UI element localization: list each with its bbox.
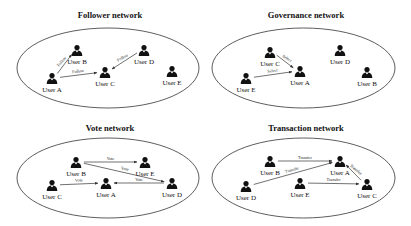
user-label: User C	[95, 80, 115, 88]
network-boundary-ellipse	[212, 138, 395, 218]
edge-label: Select	[267, 67, 279, 73]
user-label: User D	[236, 194, 256, 202]
panel-governance-network: Governance network User AUser BUser CUse…	[212, 10, 395, 108]
panel-title: Transaction network	[268, 123, 344, 133]
panel-title: Vote network	[86, 123, 135, 133]
user-icon	[265, 156, 276, 167]
edge-label: Follow	[56, 55, 68, 67]
user-label: User E	[162, 79, 181, 87]
user-icon	[295, 178, 306, 189]
user-label: User B	[357, 80, 377, 88]
user-icon	[265, 47, 276, 58]
user-node-c: User C	[42, 180, 62, 201]
user-label: User D	[162, 191, 182, 199]
edge-label: Vote	[75, 177, 83, 182]
user-node-d: User D	[134, 45, 154, 66]
user-icon	[101, 178, 112, 189]
user-node-a: User A	[330, 156, 350, 177]
user-node-e: User E	[135, 157, 154, 178]
user-icon	[241, 181, 252, 192]
edge-label: Vote	[107, 156, 115, 161]
user-node-b: User B	[260, 156, 280, 177]
user-label: User A	[42, 86, 62, 94]
panel-title: Follower network	[78, 10, 143, 20]
edge-label: Transfer	[349, 163, 363, 176]
user-node-c: User C	[357, 179, 377, 200]
user-icon	[47, 73, 58, 84]
user-node-b: User B	[66, 157, 86, 178]
edge-label: Follow	[72, 68, 84, 74]
user-icon	[241, 73, 252, 84]
user-label: User B	[67, 58, 87, 66]
user-icon	[140, 157, 151, 168]
user-node-b: User B	[67, 45, 87, 66]
user-label: User D	[330, 58, 350, 66]
user-label: User E	[290, 191, 309, 199]
user-node-d: User D	[236, 181, 256, 202]
edge-label: Transfer	[285, 165, 300, 174]
user-node-e: User E	[290, 178, 309, 199]
edge-e-to-c: Transfer	[308, 177, 359, 184]
user-icon	[100, 67, 111, 78]
edge-b-to-e: Vote	[84, 156, 137, 163]
edge-label: Transfer	[326, 177, 341, 182]
user-icon	[167, 66, 178, 77]
edge-b-to-a: Transfer	[278, 155, 332, 162]
user-node-e: User E	[236, 73, 255, 94]
user-node-a: User A	[290, 66, 310, 87]
user-node-d: User D	[330, 45, 350, 66]
panel-follower-network: Follower network User AUser BUser CUser …	[17, 10, 199, 108]
user-node-b: User B	[357, 67, 377, 88]
user-node-a: User A	[42, 73, 62, 94]
panel-vote-network: Vote network User AUser BUser CUser DUse…	[17, 123, 199, 218]
user-icon	[335, 156, 346, 167]
user-icon	[139, 45, 150, 56]
user-icon	[72, 45, 83, 56]
edge-label: Follow	[116, 52, 129, 62]
user-icon	[167, 178, 178, 189]
user-node-d: User D	[162, 178, 182, 199]
user-label: User A	[330, 169, 350, 177]
user-label: User C	[42, 193, 62, 201]
edge-label: Vote	[121, 165, 130, 172]
user-icon	[335, 45, 346, 56]
user-icon	[362, 179, 373, 190]
user-icon	[47, 180, 58, 191]
edge-e-to-a: Select	[254, 67, 292, 77]
edge-arrow	[60, 183, 98, 185]
user-node-c: User C	[95, 67, 115, 88]
user-node-c: User C	[260, 47, 280, 68]
user-node-e: User E	[162, 66, 181, 87]
user-label: User C	[357, 192, 377, 200]
edge-a-to-c: Follow	[60, 68, 97, 77]
edge-label: Vote	[135, 177, 143, 182]
user-icon	[295, 66, 306, 77]
panel-transaction-network: Transaction network User AUser BUser CUs…	[212, 123, 395, 218]
edge-label: Transfer	[298, 155, 313, 160]
edge-c-to-a: Vote	[60, 177, 98, 184]
user-label: User D	[134, 58, 154, 66]
user-label: User B	[260, 169, 280, 177]
user-label: User A	[290, 79, 310, 87]
user-label: User E	[236, 86, 255, 94]
network-diagram: Follower network User AUser BUser CUser …	[0, 0, 411, 226]
user-icon	[71, 157, 82, 168]
edge-arrow	[308, 183, 359, 184]
panel-title: Governance network	[268, 10, 345, 20]
user-label: User A	[96, 191, 116, 199]
user-node-a: User A	[96, 178, 116, 199]
user-icon	[362, 67, 373, 78]
edge-label: Select	[281, 53, 293, 63]
